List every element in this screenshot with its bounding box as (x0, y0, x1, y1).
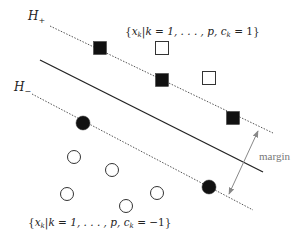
open-circle-point (61, 188, 74, 201)
h-plus-label: H+ (27, 9, 45, 25)
svm-margin-diagram: H+ H− {xk|k = 1, . . . , p, ck = 1} {xk|… (0, 0, 305, 238)
negative-set-label: {xk|k = 1, . . . , p, ck = −1} (28, 216, 171, 230)
filled-circle-support-vector (76, 116, 90, 130)
filled-circle-support-vector (202, 180, 216, 194)
open-circle-point (151, 187, 164, 200)
margin-label: margin (259, 150, 290, 162)
open-circle-point (68, 151, 81, 164)
positive-set-label: {xk|k = 1, . . . , p, ck = 1} (125, 25, 260, 39)
open-circle-point (106, 164, 119, 177)
negative-points (61, 151, 164, 213)
open-circle-point (120, 200, 133, 213)
margin-arrow (229, 131, 258, 194)
filled-square-support-vector (156, 74, 169, 87)
h-minus-label: H− (13, 80, 31, 96)
open-square-point (203, 72, 216, 85)
open-square-point (156, 42, 169, 55)
filled-square-support-vector (227, 112, 240, 125)
filled-square-support-vector (94, 42, 107, 55)
